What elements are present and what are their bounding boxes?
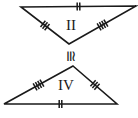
triangle-top-label: II <box>66 17 76 33</box>
figure-canvas: II IV ≅ <box>0 0 138 118</box>
triangle-top-outline <box>21 6 136 44</box>
triangle-bottom-label: IV <box>58 77 74 93</box>
congruent-to-symbol: ≅ <box>63 50 79 63</box>
geometry-figure: II IV ≅ <box>0 0 138 118</box>
